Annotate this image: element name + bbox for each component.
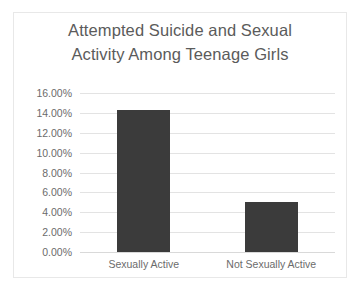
y-axis-tick-label: 0.00% bbox=[42, 247, 72, 258]
bar bbox=[245, 202, 298, 252]
plot-area bbox=[80, 93, 335, 252]
gridline bbox=[80, 252, 335, 253]
y-axis-tick-label: 8.00% bbox=[42, 167, 72, 178]
y-axis-tick-label: 10.00% bbox=[36, 147, 72, 158]
chart-title-line-1: Attempted Suicide and Sexual bbox=[20, 18, 340, 42]
y-axis-tick-label: 6.00% bbox=[42, 187, 72, 198]
bar bbox=[117, 110, 170, 252]
y-axis-tick-label: 4.00% bbox=[42, 207, 72, 218]
x-axis-category-labels: Sexually ActiveNot Sexually Active bbox=[80, 258, 335, 274]
chart-title: Attempted Suicide and Sexual Activity Am… bbox=[20, 18, 340, 66]
y-axis-tick-label: 16.00% bbox=[36, 88, 72, 99]
y-axis-tick-label: 2.00% bbox=[42, 227, 72, 238]
y-axis-tick-label: 14.00% bbox=[36, 107, 72, 118]
y-axis-tick-label: 12.00% bbox=[36, 127, 72, 138]
chart-title-line-2: Activity Among Teenage Girls bbox=[20, 42, 340, 66]
chart-screenshot: Attempted Suicide and Sexual Activity Am… bbox=[0, 0, 360, 289]
x-axis-category-label: Sexually Active bbox=[108, 258, 179, 271]
y-axis-tick-labels: 16.00%14.00%12.00%10.00%8.00%6.00%4.00%2… bbox=[14, 93, 72, 252]
bar-series bbox=[80, 93, 335, 252]
x-axis-category-label: Not Sexually Active bbox=[226, 258, 316, 271]
